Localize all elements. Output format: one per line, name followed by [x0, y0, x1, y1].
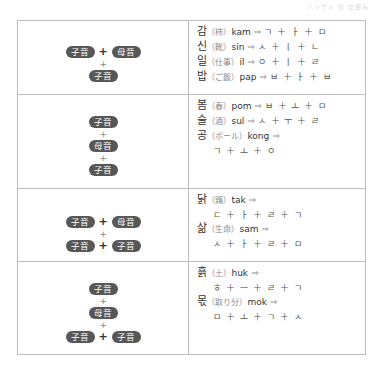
jamo-breakdown: ㅅ ＋ ㅣ ＋ ㄴ: [258, 42, 320, 52]
plus-sign: +: [99, 59, 107, 69]
example-line: 봄（春）pom ⇒ ㅂ ＋ ㅗ ＋ ㅁ: [197, 99, 365, 114]
example-line: 술（酒）sul ⇒ ㅅ ＋ ㅜ ＋ ㄹ: [197, 114, 365, 129]
romanization: tak: [231, 195, 245, 205]
jamo-breakdown: ㄷ ＋ ㅏ ＋ ㄹ ＋ ㄱ: [213, 210, 302, 220]
consonant-pill: 子音: [112, 240, 141, 252]
plus-sign: +: [99, 296, 107, 306]
table-row: 子音 + 母音 + 子音 감（柿）kam ⇒ ㄱ ＋ ㅏ ＋ ㅁ 신（靴）sin…: [18, 21, 366, 95]
example-line: 공（ボール）kong ⇒: [197, 129, 365, 144]
romanization: pom: [231, 101, 251, 111]
gloss: （ボール）: [207, 132, 247, 141]
vowel-pill: 母音: [112, 46, 141, 58]
jamo-breakdown: ㅅ ＋ ㅜ ＋ ㄹ: [258, 116, 320, 126]
gloss: （仕事）: [207, 58, 239, 67]
arrow-icon: ⇒: [247, 116, 255, 126]
gloss: （鶏）: [207, 196, 231, 205]
jamo-breakdown: ㅂ ＋ ㅗ ＋ ㅁ: [265, 101, 327, 111]
page-header-text: ハングル の 仕組み: [307, 2, 369, 11]
romanization: huk: [231, 268, 248, 278]
gloss: （靴）: [207, 43, 231, 52]
hangul-word: 몫: [197, 295, 207, 308]
pattern-cell: 子音 + 母音 + 子音: [18, 95, 189, 189]
plus-sign: +: [99, 153, 107, 163]
table-row: 子音 + 母音 + 子音 + 子音 흙（土）huk ⇒ ㅎ ＋ ㅡ ＋ ㄹ ＋ …: [18, 262, 366, 355]
consonant-pill: 子音: [89, 70, 118, 82]
consonant-pill: 子音: [89, 283, 118, 295]
plus-sign: +: [99, 331, 108, 343]
jamo-breakdown: ㅂ ＋ ㅏ ＋ ㅂ: [270, 72, 332, 82]
arrow-icon: ⇒: [254, 101, 262, 111]
hangul-word: 닭: [197, 193, 207, 206]
example-line: 일（仕事）il ⇒ ㅇ ＋ ㅣ ＋ ㄹ: [197, 55, 365, 70]
examples-cell: 닭（鶏）tak ⇒ ㄷ ＋ ㅏ ＋ ㄹ ＋ ㄱ 삶（生命）sam ⇒ ㅅ ＋ ㅏ…: [189, 189, 366, 262]
examples-cell: 감（柿）kam ⇒ ㄱ ＋ ㅏ ＋ ㅁ 신（靴）sin ⇒ ㅅ ＋ ㅣ ＋ ㄴ …: [189, 21, 366, 95]
consonant-pill: 子音: [89, 164, 118, 176]
example-jamo-line: ㄱ ＋ ㅗ ＋ ㅇ: [197, 144, 365, 158]
vowel-pill: 母音: [89, 140, 118, 152]
example-line: 몫（取り分）mok ⇒: [197, 295, 365, 310]
gloss: （酒）: [207, 117, 231, 126]
vowel-pill: 母音: [89, 307, 118, 319]
plus-sign: +: [99, 320, 107, 330]
jamo-breakdown: ㅇ ＋ ㅣ ＋ ㄹ: [258, 57, 320, 67]
example-line: 닭（鶏）tak ⇒: [197, 193, 365, 208]
consonant-pill: 子音: [89, 116, 118, 128]
plus-sign: +: [99, 46, 108, 58]
consonant-pill: 子音: [66, 46, 95, 58]
hangul-word: 밥: [197, 70, 207, 83]
plus-sign: +: [99, 240, 108, 252]
arrow-icon: ⇒: [261, 224, 269, 234]
jamo-breakdown: ㅎ ＋ ㅡ ＋ ㄹ ＋ ㄱ: [213, 283, 302, 293]
example-line: 신（靴）sin ⇒ ㅅ ＋ ㅣ ＋ ㄴ: [197, 40, 365, 55]
romanization: il: [239, 57, 244, 67]
romanization: sin: [231, 42, 244, 52]
syllable-structure-table: 子音 + 母音 + 子音 감（柿）kam ⇒ ㄱ ＋ ㅏ ＋ ㅁ 신（靴）sin…: [17, 20, 366, 355]
gloss: （春）: [207, 102, 231, 111]
examples-cell: 봄（春）pom ⇒ ㅂ ＋ ㅗ ＋ ㅁ 술（酒）sul ⇒ ㅅ ＋ ㅜ ＋ ㄹ …: [189, 95, 366, 189]
hangul-word: 공: [197, 129, 207, 142]
hangul-word: 일: [197, 55, 207, 68]
example-line: 감（柿）kam ⇒ ㄱ ＋ ㅏ ＋ ㅁ: [197, 25, 365, 40]
romanization: mok: [247, 297, 267, 307]
arrow-icon: ⇒: [270, 297, 278, 307]
example-jamo-line: ㅅ ＋ ㅏ ＋ ㄹ ＋ ㅁ: [197, 237, 365, 251]
arrow-icon: ⇒: [247, 42, 255, 52]
romanization: sul: [231, 116, 244, 126]
vowel-pill: 母音: [112, 216, 141, 228]
arrow-icon: ⇒: [247, 57, 255, 67]
romanization: sam: [239, 224, 258, 234]
romanization: kam: [231, 27, 250, 37]
hangul-word: 봄: [197, 99, 207, 112]
jamo-breakdown: ㄱ ＋ ㅏ ＋ ㅁ: [264, 27, 326, 37]
gloss: （ご飯）: [207, 73, 239, 82]
plus-sign: +: [99, 229, 107, 239]
arrow-icon: ⇒: [251, 268, 259, 278]
example-jamo-line: ㄷ ＋ ㅏ ＋ ㄹ ＋ ㄱ: [197, 208, 365, 222]
arrow-icon: ⇒: [272, 131, 280, 141]
consonant-pill: 子音: [112, 331, 141, 343]
hangul-word: 흙: [197, 266, 207, 279]
example-line: 밥（ご飯）pap ⇒ ㅂ ＋ ㅏ ＋ ㅂ: [197, 70, 365, 85]
arrow-icon: ⇒: [249, 195, 257, 205]
plus-sign: +: [99, 216, 108, 228]
gloss: （生命）: [207, 225, 239, 234]
pattern-cell: 子音 + 母音 + 子音: [18, 21, 189, 95]
jamo-breakdown: ㅁ ＋ ㅗ ＋ ㄱ ＋ ㅅ: [213, 312, 302, 322]
gloss: （土）: [207, 269, 231, 278]
hangul-word: 술: [197, 114, 207, 127]
jamo-breakdown: ㄱ ＋ ㅗ ＋ ㅇ: [213, 146, 275, 156]
arrow-icon: ⇒: [259, 72, 267, 82]
pattern-cell: 子音 + 母音 + 子音 + 子音: [18, 189, 189, 262]
hangul-word: 감: [197, 25, 207, 38]
example-line: 삶（生命）sam ⇒: [197, 222, 365, 237]
hangul-word: 삶: [197, 222, 207, 235]
gloss: （柿）: [207, 28, 231, 37]
example-jamo-line: ㅁ ＋ ㅗ ＋ ㄱ ＋ ㅅ: [197, 310, 365, 324]
plus-sign: +: [99, 129, 107, 139]
pattern-cell: 子音 + 母音 + 子音 + 子音: [18, 262, 189, 355]
gloss: （取り分）: [207, 298, 247, 307]
example-jamo-line: ㅎ ＋ ㅡ ＋ ㄹ ＋ ㄱ: [197, 281, 365, 295]
examples-cell: 흙（土）huk ⇒ ㅎ ＋ ㅡ ＋ ㄹ ＋ ㄱ 몫（取り分）mok ⇒ ㅁ ＋ …: [189, 262, 366, 355]
example-line: 흙（土）huk ⇒: [197, 266, 365, 281]
table-row: 子音 + 母音 + 子音 봄（春）pom ⇒ ㅂ ＋ ㅗ ＋ ㅁ 술（酒）sul…: [18, 95, 366, 189]
